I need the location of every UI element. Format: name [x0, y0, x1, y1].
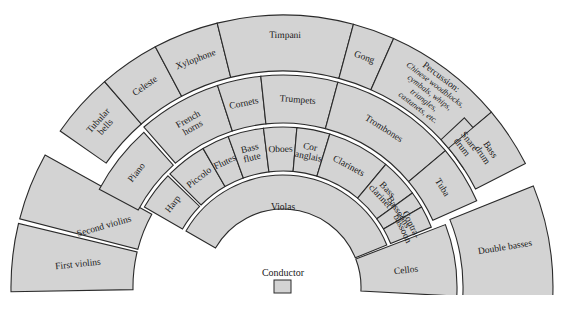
orchestra-seating-diagram: First violinsSecond violinsViolasCellosD…	[0, 0, 563, 309]
label-line: Violas	[271, 202, 296, 212]
conductor-podium	[274, 280, 291, 293]
label-oboes: Oboes	[268, 144, 293, 154]
label-violas: Violas	[271, 202, 296, 212]
label-line: Oboes	[268, 144, 293, 154]
section-timpani	[217, 15, 353, 78]
label-line: Timpani	[269, 30, 301, 40]
seating-plan-svg: First violinsSecond violinsViolasCellosD…	[0, 0, 563, 309]
conductor-label: Conductor	[262, 267, 305, 278]
label-timpani: Timpani	[269, 30, 301, 40]
